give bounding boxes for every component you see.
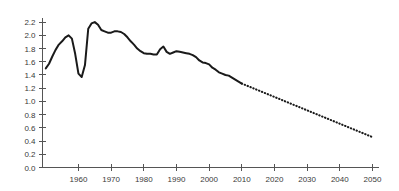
x-tick-label: 1980: [135, 175, 153, 184]
x-tick-label: 1970: [102, 175, 120, 184]
y-tick-label: 0.6: [24, 124, 36, 133]
y-tick-label: 0.4: [24, 137, 36, 146]
line-chart: 0.00.20.40.60.81.01.21.41.61.82.02.2 196…: [0, 0, 399, 191]
series-line-historical: [46, 22, 242, 83]
y-tick-label: 1.6: [24, 58, 36, 67]
y-tick-label: 2.2: [24, 18, 36, 27]
series-line-projection: [242, 84, 373, 138]
y-tick-label: 1.2: [24, 84, 36, 93]
x-tick-label: 2000: [200, 175, 218, 184]
y-tick-label: 2.0: [24, 31, 36, 40]
x-tick-label: 1960: [70, 175, 88, 184]
data-series-group: [46, 22, 373, 137]
x-tick-label: 1990: [168, 175, 186, 184]
y-tick-label: 0.2: [24, 150, 36, 159]
x-tick-label: 2040: [331, 175, 349, 184]
x-tick-label: 2050: [364, 175, 382, 184]
x-tick-label: 2010: [233, 175, 251, 184]
y-tick-label: 0.0: [24, 164, 36, 173]
y-tick-label: 1.4: [24, 71, 36, 80]
chart-container: 0.00.20.40.60.81.01.21.41.61.82.02.2 196…: [0, 0, 399, 191]
x-tick-label: 2030: [298, 175, 316, 184]
y-tick-label: 1.0: [24, 97, 36, 106]
x-axis: 1960197019801990200020102020203020402050: [43, 164, 382, 184]
x-tick-label: 2020: [266, 175, 284, 184]
y-tick-label: 0.8: [24, 111, 36, 120]
y-axis: 0.00.20.40.60.81.01.21.41.61.82.02.2: [24, 18, 46, 172]
y-tick-label: 1.8: [24, 45, 36, 54]
